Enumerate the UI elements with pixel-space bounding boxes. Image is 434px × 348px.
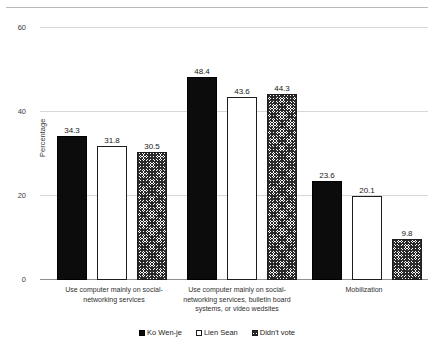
legend-label-ko-wen-je: Ko Wen-je [147, 328, 182, 337]
bar-didnt-vote-1[interactable]: 30.5 [137, 152, 167, 280]
legend-item-ko-wen-je[interactable]: Ko Wen-je [139, 328, 182, 337]
legend-swatch-icon-didnt-vote [252, 330, 258, 336]
y-tick-20: 20 [0, 191, 26, 200]
legend-swatch-icon-ko-wen-je [139, 330, 145, 336]
bar-ko-wen-je-3[interactable]: 23.6 [312, 181, 342, 280]
bar-value-label: 44.3 [262, 84, 302, 93]
bar-ko-wen-je-1[interactable]: 34.3 [57, 136, 87, 280]
top-divider-rule [6, 7, 428, 8]
bar-chart: 60 40 20 0 34.3 31.8 30.5 48.4 43.6 [0, 0, 434, 348]
top-caption [40, 0, 400, 4]
bar-value-label: 48.4 [182, 67, 222, 76]
x-category-label-2: Use computer mainly on social- networkin… [163, 285, 311, 314]
bar-value-label: 23.6 [307, 171, 347, 180]
x-category-label-3: Mobilization [302, 285, 426, 295]
legend-swatch-icon-lien-sean [196, 330, 202, 336]
bar-value-label: 20.1 [347, 186, 387, 195]
legend-item-didnt-vote[interactable]: Didn't vote [252, 328, 295, 337]
bar-lien-sean-1[interactable]: 31.8 [97, 146, 127, 280]
bar-value-label: 43.6 [222, 87, 262, 96]
y-tick-60: 60 [0, 23, 26, 32]
bar-ko-wen-je-2[interactable]: 48.4 [187, 77, 217, 280]
bar-value-label: 9.8 [387, 229, 427, 238]
legend-label-didnt-vote: Didn't vote [260, 328, 295, 337]
bar-value-label: 34.3 [52, 126, 92, 135]
chart-legend: Ko Wen-je Lien Sean Didn't vote [0, 328, 434, 337]
y-tick-0: 0 [0, 275, 26, 284]
bar-lien-sean-2[interactable]: 43.6 [227, 97, 257, 280]
bar-group-1: 34.3 31.8 30.5 [57, 27, 173, 280]
y-axis-label: Percentage [38, 119, 47, 157]
x-category-label-2-line-2: networking services, bulletin board [163, 295, 311, 305]
bar-didnt-vote-3[interactable]: 9.8 [392, 239, 422, 280]
bar-value-label: 31.8 [92, 136, 132, 145]
plot-area: 60 40 20 0 34.3 31.8 30.5 48.4 43.6 [40, 27, 428, 280]
x-category-label-2-line-1: Use computer mainly on social- [163, 285, 311, 295]
bar-value-label: 30.5 [132, 142, 172, 151]
bar-group-2: 48.4 43.6 44.3 [187, 27, 303, 280]
bar-lien-sean-3[interactable]: 20.1 [352, 196, 382, 280]
y-tick-40: 40 [0, 107, 26, 116]
bar-didnt-vote-2[interactable]: 44.3 [267, 94, 297, 280]
x-category-label-2-line-3: systems, or video wedsites [163, 304, 311, 314]
legend-item-lien-sean[interactable]: Lien Sean [196, 328, 238, 337]
bar-group-3: 23.6 20.1 9.8 [312, 27, 428, 280]
x-category-label-3-line-1: Mobilization [302, 285, 426, 295]
legend-label-lien-sean: Lien Sean [204, 328, 238, 337]
